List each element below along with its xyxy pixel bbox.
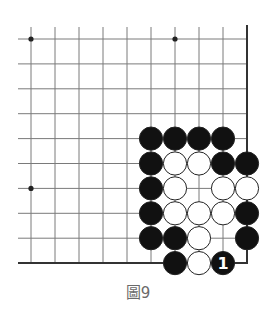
white-stone: [187, 227, 210, 250]
white-stone: [187, 152, 210, 175]
black-stone: [235, 202, 258, 225]
black-stone: [163, 227, 186, 250]
white-stone: [163, 152, 186, 175]
star-point: [172, 36, 177, 41]
move-number-label: 1: [217, 254, 228, 273]
black-stone: [139, 177, 162, 200]
figure-caption: 圖9: [0, 284, 276, 302]
black-stone: [211, 152, 234, 175]
white-stone: [187, 252, 210, 275]
white-stone: [163, 177, 186, 200]
star-point: [28, 186, 33, 191]
black-stone: [163, 252, 186, 275]
black-stone: [139, 202, 162, 225]
white-stone: [235, 177, 258, 200]
black-stone: [235, 152, 258, 175]
white-stone: [187, 202, 210, 225]
go-board: 1: [0, 0, 276, 312]
black-stone: [139, 127, 162, 150]
black-stone: [139, 152, 162, 175]
black-stone: [139, 227, 162, 250]
white-stone: [163, 202, 186, 225]
black-stone: [163, 127, 186, 150]
black-stone: [211, 127, 234, 150]
grid-lines: [18, 27, 247, 263]
star-point: [28, 36, 33, 41]
white-stone: [211, 202, 234, 225]
black-stone: [235, 227, 258, 250]
white-stone: [211, 177, 234, 200]
black-stone: [187, 127, 210, 150]
